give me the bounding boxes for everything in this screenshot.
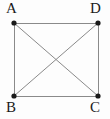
vertex-c-dot (95, 93, 100, 98)
vertex-label-c: C (90, 100, 100, 115)
graph-figure: A D B C (0, 0, 110, 119)
vertex-label-b: B (6, 100, 16, 115)
vertex-label-a: A (6, 1, 17, 16)
vertex-a-dot (11, 20, 16, 25)
vertex-label-d: D (90, 1, 101, 16)
vertex-b-dot (11, 93, 16, 98)
vertex-d-dot (95, 20, 100, 25)
